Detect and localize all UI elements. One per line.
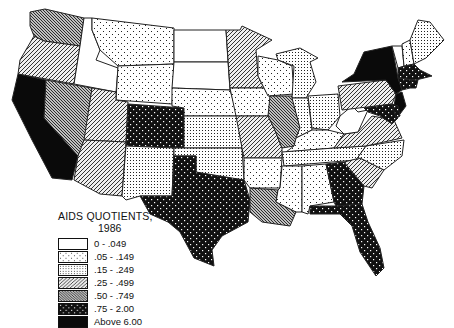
state-fl [310,204,384,276]
state-az [74,140,126,196]
state-sd [172,62,230,90]
swatch-sparse-dots [58,251,88,263]
legend-item: .25 - .499 [58,276,208,289]
state-ks [184,116,242,148]
legend-item: .75 - 2.00 [58,302,208,315]
swatch-light-hatch [58,277,88,289]
legend-title: AIDS QUOTIENTS, [58,210,208,222]
swatch-white-dots-on-black [58,303,88,315]
state-nm [122,146,174,200]
swatch-dense-dots [58,264,88,276]
state-co [126,104,184,148]
state-ri [410,80,418,88]
map-legend: AIDS QUOTIENTS, 1986 0 - .049 .05 - .149… [58,210,208,328]
swatch-dark-hatch [58,290,88,302]
legend-label: .15 - .249 [94,264,134,276]
legend-label: Above 6.00 [94,316,142,328]
swatch-solid-black [58,316,88,328]
legend-item: 0 - .049 [58,237,208,250]
legend-item: .50 - .749 [58,289,208,302]
legend-item: Above 6.00 [58,315,208,328]
state-ma [398,64,432,80]
legend-rows: 0 - .049 .05 - .149 .15 - .249 .25 - .49… [58,237,208,328]
state-ar [244,158,282,188]
legend-label: .75 - 2.00 [94,303,134,315]
legend-item: .15 - .249 [58,263,208,276]
state-oh [308,94,340,130]
legend-label: 0 - .049 [94,238,126,250]
legend-label: .50 - .749 [94,290,134,302]
state-nd [174,30,228,62]
legend-label: .05 - .149 [94,251,134,263]
legend-year: 1986 [58,222,208,234]
swatch-blank [58,238,88,250]
state-mt [92,18,174,66]
legend-label: .25 - .499 [94,277,134,289]
state-me [410,20,444,64]
legend-item: .05 - .149 [58,250,208,263]
state-wy [116,64,174,104]
